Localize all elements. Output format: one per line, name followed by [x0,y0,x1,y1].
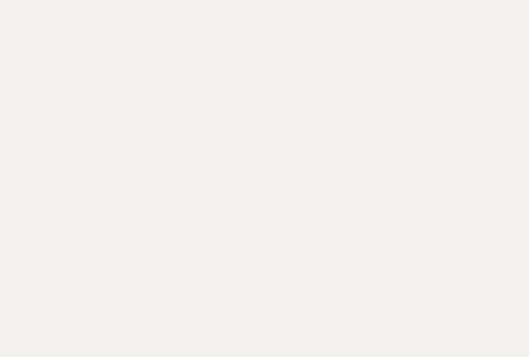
scanned-figure-page [0,0,529,357]
evolution-score-rate-diversity-figure [0,0,529,357]
